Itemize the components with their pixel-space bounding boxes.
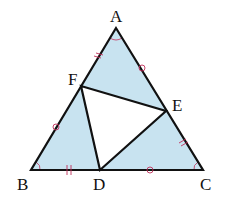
- label-a: A: [110, 7, 123, 26]
- label-e: E: [172, 96, 182, 115]
- label-c: C: [200, 175, 211, 194]
- label-d: D: [93, 175, 105, 194]
- label-b: B: [17, 175, 28, 194]
- label-f: F: [68, 70, 77, 89]
- triangle-diagram: A B C D E F: [0, 0, 227, 206]
